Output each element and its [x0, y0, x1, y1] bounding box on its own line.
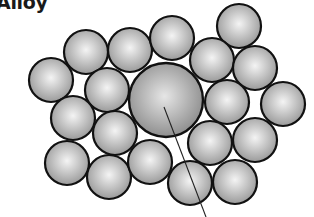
host-atom [205, 80, 249, 124]
host-atom [168, 161, 212, 205]
host-atom [51, 96, 95, 140]
host-atom [87, 155, 131, 199]
host-atom [45, 141, 89, 185]
host-atom [29, 58, 73, 102]
alloy-atom-diagram [0, 0, 314, 217]
host-atom [93, 111, 137, 155]
host-atom [213, 160, 257, 204]
solute-atom [129, 63, 203, 137]
host-atom [233, 118, 277, 162]
host-atom [261, 82, 305, 126]
host-atom [108, 28, 152, 72]
solute-atom-group [129, 63, 203, 137]
host-atom [190, 38, 234, 82]
host-atom [150, 16, 194, 60]
host-atom [188, 121, 232, 165]
host-atom [128, 140, 172, 184]
host-atom [64, 30, 108, 74]
